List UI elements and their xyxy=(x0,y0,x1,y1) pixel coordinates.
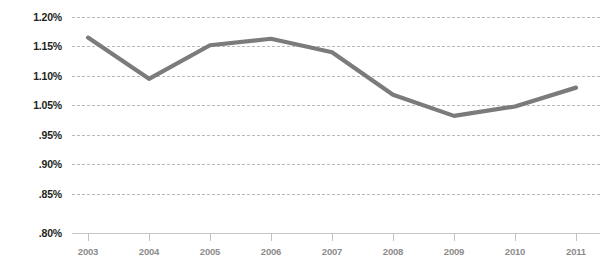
x-tick-label: 2004 xyxy=(139,246,159,257)
series-line xyxy=(88,38,576,116)
x-tick-mark xyxy=(576,234,577,241)
x-tick-mark xyxy=(454,234,455,241)
x-tick-mark xyxy=(271,234,272,241)
plot-area: 1.20% 1.15% 1.10% 1.05% .95% .90% .85% .… xyxy=(0,0,608,278)
x-tick-label: 2010 xyxy=(505,246,525,257)
x-tick-label: 2009 xyxy=(444,246,464,257)
x-tick-mark xyxy=(393,234,394,241)
x-tick-mark xyxy=(210,234,211,241)
x-tick-label: 2003 xyxy=(78,246,98,257)
x-tick-label: 2006 xyxy=(261,246,281,257)
x-tick-label: 2008 xyxy=(383,246,403,257)
x-tick-mark xyxy=(332,234,333,241)
x-tick-label: 2007 xyxy=(322,246,342,257)
series-layer xyxy=(0,0,608,278)
x-axis-line xyxy=(72,233,600,234)
x-tick-label: 2005 xyxy=(200,246,220,257)
line-chart: 1.20% 1.15% 1.10% 1.05% .95% .90% .85% .… xyxy=(0,0,608,278)
x-tick-mark xyxy=(88,234,89,241)
x-tick-label: 2011 xyxy=(566,246,586,257)
x-tick-mark xyxy=(515,234,516,241)
x-tick-mark xyxy=(149,234,150,241)
